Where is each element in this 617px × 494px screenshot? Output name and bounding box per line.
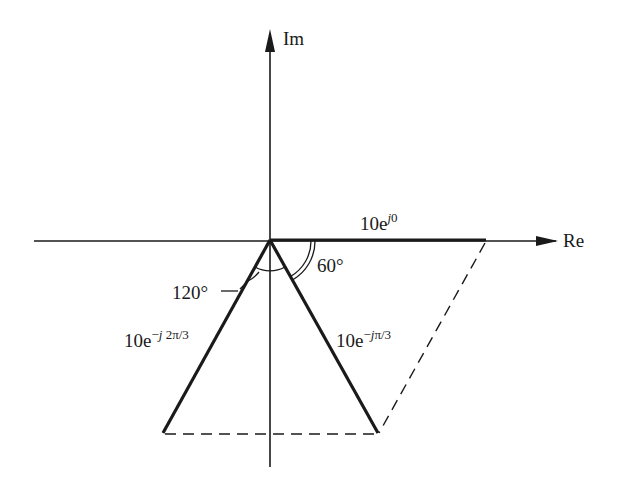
phasor-diagram xyxy=(0,0,617,494)
real-axis-label: Re xyxy=(563,231,584,250)
imag-axis-label: Im xyxy=(283,29,304,48)
angle-arc-60 xyxy=(291,241,316,280)
angle-60-label: 60° xyxy=(317,256,344,275)
phasor-minus-2pi-3-label: 10e−j 2π/3 xyxy=(124,331,189,350)
phasor-minus-pi-3-label: 10e−jπ/3 xyxy=(336,331,391,350)
angle-120-label: 120° xyxy=(172,283,208,302)
dashed-line-right xyxy=(379,243,485,433)
real-axis-arrow-icon xyxy=(536,236,558,246)
imag-axis-arrow-icon xyxy=(265,29,275,52)
phasor-0-label: 10ej0 xyxy=(360,214,398,233)
